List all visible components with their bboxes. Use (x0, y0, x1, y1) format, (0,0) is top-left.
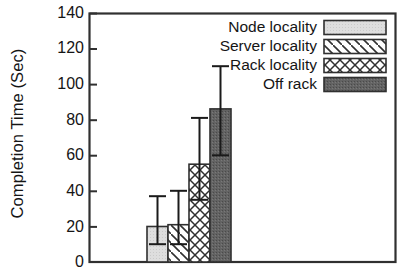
legend-label-node-locality: Node locality (228, 18, 317, 35)
legend-swatch-server-locality (324, 40, 386, 54)
y-axis-ticks (90, 14, 98, 263)
legend-label-off-rack: Off rack (263, 75, 317, 92)
plot-area: Node locality Server locality Rack local… (0, 0, 406, 278)
legend: Node locality Server locality Rack local… (220, 18, 386, 92)
legend-item-rack-locality[interactable]: Rack locality (230, 56, 386, 73)
chart-figure: Completion Time (Sec) 140 120 100 80 60 … (0, 0, 406, 278)
legend-item-server-locality[interactable]: Server locality (220, 37, 386, 54)
legend-item-node-locality[interactable]: Node locality (228, 18, 386, 35)
legend-label-server-locality: Server locality (220, 37, 318, 54)
bar-group (147, 109, 231, 262)
legend-label-rack-locality: Rack locality (230, 56, 317, 73)
legend-swatch-node-locality (324, 21, 386, 35)
legend-item-off-rack[interactable]: Off rack (263, 75, 386, 92)
legend-swatch-rack-locality (324, 59, 386, 73)
legend-swatch-off-rack (324, 78, 386, 92)
